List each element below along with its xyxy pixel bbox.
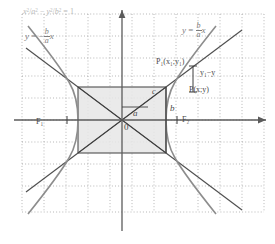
hyperbola-equation-label: x2/a2 − y2/b2 = 1 (23, 8, 74, 16)
segment-diff-label: y₁−y (200, 69, 215, 77)
asymptote-left-label: y = −bax (25, 28, 54, 45)
origin-label: 0 (124, 123, 129, 132)
point-p1-label: P₁(x₁;y₁) (156, 58, 184, 66)
focus-left-label: F₁ (36, 118, 43, 126)
side-a-label: a (133, 109, 138, 118)
hyperbola-branch-right-lower (166, 120, 216, 214)
side-b-label: b (170, 104, 175, 113)
x-axis-arrow-icon (258, 117, 266, 124)
side-c-label: c (152, 88, 156, 96)
point-p-label: P(x;y) (189, 86, 209, 94)
hyperbola-figure: x2/a2 − y2/b2 = 1 y = −bax y = bax P₁(x₁… (0, 0, 275, 244)
asymptote-right-label: y = bax (182, 22, 206, 39)
hyperbola-branch-left-lower (28, 120, 78, 214)
focus-right-label: F₂ (182, 116, 189, 124)
